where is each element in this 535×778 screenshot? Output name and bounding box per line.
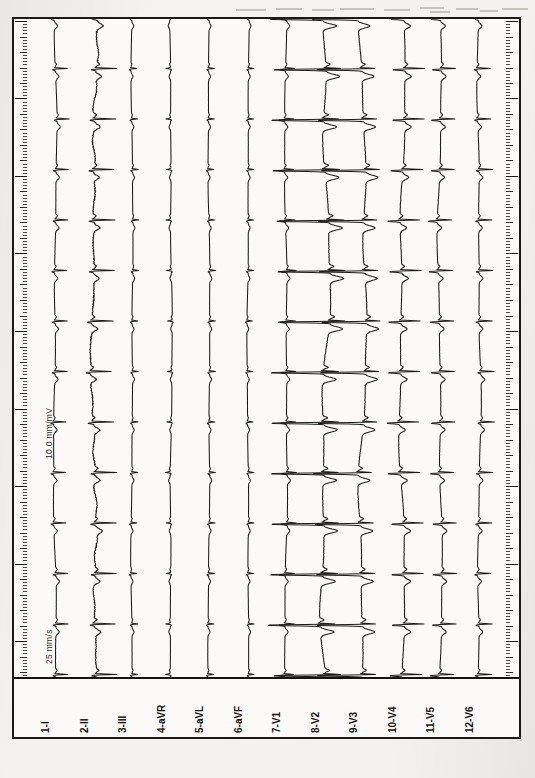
scan-artifact-mark — [430, 11, 450, 13]
ruler-tick — [506, 151, 510, 152]
scan-artifact-mark — [502, 8, 528, 10]
ruler-tick — [506, 95, 510, 96]
ruler-tick — [506, 480, 510, 481]
ruler-tick — [506, 675, 510, 676]
ecg-trace-v4 — [387, 19, 424, 679]
ruler-tick — [506, 505, 510, 506]
ruler-tick — [506, 74, 510, 75]
ruler-tick — [506, 185, 510, 186]
ruler-tick — [15, 253, 27, 254]
ruler-tick — [506, 195, 510, 196]
ruler-tick — [506, 179, 510, 180]
ecg-trace-avf — [246, 19, 255, 679]
ruler-tick — [506, 405, 510, 406]
ruler-tick — [506, 347, 513, 348]
ecg-trace-v2 — [269, 19, 345, 679]
ruler-tick — [506, 433, 510, 434]
ruler-tick — [506, 64, 510, 65]
ruler-tick — [506, 309, 510, 310]
ruler-tick — [506, 663, 510, 664]
ruler-tick — [506, 170, 510, 171]
ruler-tick — [15, 21, 27, 22]
ruler-tick — [506, 263, 510, 264]
ruler-tick — [20, 579, 27, 580]
ruler-tick — [20, 145, 27, 146]
ruler-tick — [20, 52, 27, 53]
ruler-tick — [506, 588, 510, 589]
ruler-tick — [506, 241, 510, 242]
ruler-tick — [20, 68, 27, 69]
ruler-tick — [506, 27, 510, 28]
ruler-tick — [506, 396, 510, 397]
calibration-gain-label: 10.0 mm/mV — [44, 408, 54, 459]
ruler-tick — [20, 672, 27, 673]
ruler-tick — [506, 653, 510, 654]
ruler-tick — [506, 554, 510, 555]
ruler-tick — [506, 86, 510, 87]
ruler-tick — [506, 133, 510, 134]
ruler-tick — [506, 322, 510, 323]
ruler-tick — [506, 117, 510, 118]
ruler-tick — [506, 461, 510, 462]
ruler-tick — [506, 24, 510, 25]
ruler-tick — [506, 452, 510, 453]
ecg-trace-field: 10.0 mm/mV 25 mm/s — [14, 19, 519, 679]
ruler-tick — [20, 424, 27, 425]
ruler-tick — [506, 52, 513, 53]
ruler-tick — [506, 601, 510, 602]
ruler-tick — [506, 486, 518, 487]
ruler-tick — [20, 610, 27, 611]
ruler-tick — [506, 390, 510, 391]
lead-label-v4: 10-V4 — [387, 706, 398, 733]
ruler-tick — [506, 520, 510, 521]
ruler-tick — [20, 471, 27, 472]
ruler-tick — [20, 393, 27, 394]
ruler-tick — [506, 647, 510, 648]
ruler-tick — [506, 111, 510, 112]
ruler-tick — [506, 247, 510, 248]
ruler-tick — [506, 644, 510, 645]
ruler-tick — [506, 126, 510, 127]
ruler-tick — [506, 387, 510, 388]
ruler-tick — [506, 58, 510, 59]
ruler-tick — [506, 173, 510, 174]
ruler-tick — [506, 40, 510, 41]
ruler-tick — [20, 378, 27, 379]
ruler-tick — [506, 328, 510, 329]
ecg-trace-avr — [166, 19, 174, 679]
ecg-trace-i — [51, 19, 69, 679]
ruler-tick — [20, 129, 27, 130]
ruler-tick — [506, 120, 510, 121]
ruler-tick — [506, 92, 510, 93]
ruler-tick — [506, 629, 510, 630]
scan-artifact-mark — [456, 8, 478, 10]
ruler-tick — [506, 374, 510, 375]
ruler-tick — [506, 523, 510, 524]
ruler-tick — [20, 455, 27, 456]
ruler-tick — [506, 253, 518, 254]
ruler-tick — [506, 440, 513, 441]
ruler-tick — [506, 471, 513, 472]
ruler-tick — [506, 672, 513, 673]
ruler-tick — [506, 650, 510, 651]
ruler-tick — [506, 89, 510, 90]
ruler-tick — [506, 368, 510, 369]
lead-label-v3: 9-V3 — [348, 712, 359, 733]
ruler-tick — [506, 430, 510, 431]
ruler-left — [14, 19, 27, 679]
ruler-tick — [506, 232, 510, 233]
ruler-tick — [20, 440, 27, 441]
ruler-tick — [20, 316, 27, 317]
ruler-tick — [506, 154, 510, 155]
ruler-tick — [20, 284, 27, 285]
ruler-tick — [15, 98, 27, 99]
ruler-tick — [506, 281, 510, 282]
ruler-tick — [506, 235, 510, 236]
ruler-tick — [506, 201, 510, 202]
ruler-tick — [506, 139, 510, 140]
lead-label-strip: 1-I2-II3-III4-aVR5-aVL6-aVF7-V18-V29-V31… — [14, 681, 519, 737]
ruler-tick — [506, 610, 513, 611]
ruler-tick — [506, 458, 510, 459]
ruler-tick — [506, 238, 513, 239]
ruler-tick — [506, 545, 510, 546]
